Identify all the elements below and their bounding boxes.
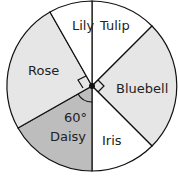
label-angle: 60°: [64, 110, 87, 125]
pie-chart: Lily Tulip Rose Bluebell 60° Daisy Iris: [0, 0, 178, 191]
label-daisy: Daisy: [50, 129, 86, 144]
label-lily: Lily: [72, 18, 94, 33]
label-rose: Rose: [28, 63, 59, 78]
label-bluebell: Bluebell: [116, 81, 168, 96]
label-iris: Iris: [102, 133, 122, 148]
label-tulip: Tulip: [99, 18, 130, 33]
